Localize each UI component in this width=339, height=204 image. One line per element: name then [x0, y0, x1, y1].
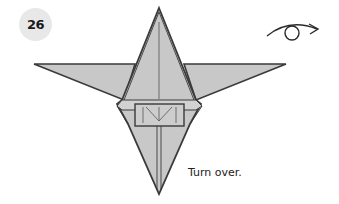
- turn-over-arrow-icon: [263, 16, 323, 46]
- left-wing: [34, 64, 135, 100]
- step-number: 26: [27, 17, 44, 32]
- instruction-caption: Turn over.: [188, 166, 242, 179]
- step-number-badge: 26: [19, 8, 52, 41]
- right-wing: [184, 64, 286, 100]
